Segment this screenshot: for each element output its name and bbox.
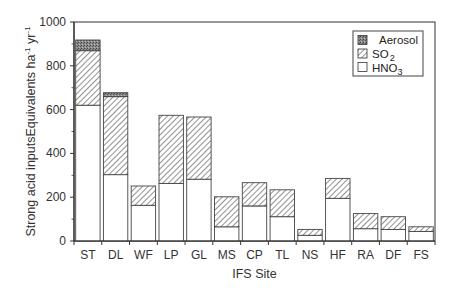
bar-wf [131, 186, 155, 241]
x-tick-label: GL [191, 248, 207, 262]
legend-item-aerosol: Aerosol [358, 34, 418, 46]
bar-ms [215, 197, 239, 241]
x-axis: STDLWFLPGLMSCPTLNSHFRADFFS [74, 241, 435, 262]
segment-hno3 [131, 205, 155, 241]
hno3-swatch-icon [358, 63, 367, 72]
y-tick-label: 1000 [39, 15, 66, 29]
bar-tl [270, 190, 294, 241]
legend-label-aerosol: Aerosol [379, 34, 418, 46]
segment-hno3 [242, 206, 266, 241]
segment-so2 [381, 217, 405, 230]
x-tick-label: NS [302, 248, 319, 262]
bar-hf [326, 178, 350, 241]
segment-hno3 [353, 229, 377, 241]
bar-dl [103, 93, 127, 241]
x-tick-label: CP [246, 248, 263, 262]
x-tick-label: ST [80, 248, 96, 262]
x-tick-label: HF [330, 248, 346, 262]
x-tick-label: MS [218, 248, 236, 262]
segment-so2 [242, 183, 266, 206]
y-axis: 02004006008001000 [39, 15, 74, 248]
stacked-bar-chart: 02004006008001000 STDLWFLPGLMSCPTLNSHFRA… [0, 0, 451, 291]
y-axis-title-sup2: -1 [23, 26, 32, 34]
y-axis-title-main: Strong acid inputsEquivalents ha [24, 54, 38, 236]
aerosol-swatch-icon [358, 36, 367, 45]
segment-hno3 [215, 227, 239, 241]
legend: Aerosol SO2 HNO3 [353, 31, 423, 77]
bar-fs [409, 227, 433, 241]
y-tick-label: 200 [46, 190, 66, 204]
segment-so2 [131, 186, 155, 205]
segment-hno3 [187, 179, 211, 241]
x-tick-label: RA [357, 248, 374, 262]
segment-so2 [187, 117, 211, 179]
segment-so2 [409, 227, 433, 232]
bar-lp [159, 115, 183, 241]
segment-so2 [270, 190, 294, 217]
bar-st [76, 40, 100, 241]
segment-so2 [353, 214, 377, 229]
bar-ra [353, 214, 377, 241]
segment-hno3 [409, 231, 433, 241]
y-tick-label: 600 [46, 103, 66, 117]
segment-so2 [159, 115, 183, 183]
segment-so2 [103, 97, 127, 175]
segment-aerosol [103, 93, 127, 97]
x-tick-label: DF [385, 248, 401, 262]
segment-hno3 [270, 217, 294, 241]
segment-hno3 [76, 105, 100, 241]
y-axis-title: Strong acid inputsEquivalents ha-1 yr-1 [23, 26, 38, 237]
x-tick-label: WF [134, 248, 153, 262]
segment-so2 [76, 51, 100, 105]
legend-label-hno3-sub: 3 [398, 67, 403, 77]
bar-gl [187, 117, 211, 241]
segment-so2 [215, 197, 239, 227]
segment-hno3 [103, 175, 127, 241]
segment-so2 [298, 229, 322, 235]
segment-hno3 [159, 183, 183, 241]
y-tick-label: 0 [59, 234, 66, 248]
y-tick-label: 800 [46, 59, 66, 73]
bar-df [381, 217, 405, 241]
x-axis-title: IFS Site [232, 267, 277, 281]
x-tick-label: FS [413, 248, 428, 262]
segment-hno3 [298, 235, 322, 241]
segment-hno3 [326, 198, 350, 241]
x-tick-label: DL [108, 248, 124, 262]
bar-ns [298, 229, 322, 241]
y-axis-title-mid: yr [24, 34, 38, 48]
x-tick-label: TL [275, 248, 289, 262]
segment-so2 [326, 178, 350, 198]
legend-label-hno3: HNO [372, 62, 398, 74]
bar-cp [242, 183, 266, 241]
segment-aerosol [76, 40, 100, 51]
x-tick-label: LP [164, 248, 179, 262]
segment-hno3 [381, 229, 405, 241]
y-tick-label: 400 [46, 146, 66, 160]
legend-label-so2: SO [372, 48, 389, 60]
so2-swatch-icon [358, 49, 367, 58]
